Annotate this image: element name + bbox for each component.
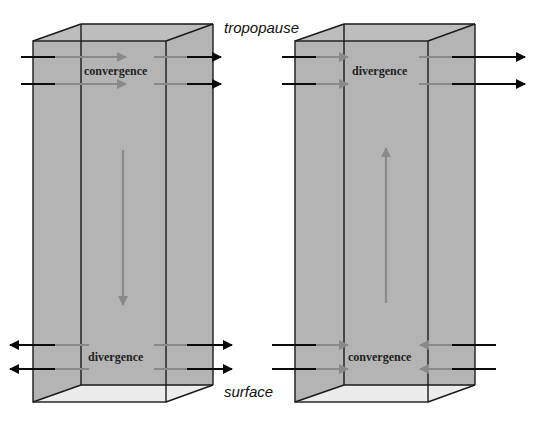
right-top-label: divergence bbox=[352, 64, 407, 79]
tropopause-label: tropopause bbox=[224, 19, 299, 36]
diagram-canvas bbox=[0, 0, 538, 421]
left-top-label: convergence bbox=[84, 64, 147, 79]
left-column-box bbox=[10, 24, 232, 402]
surface-label: surface bbox=[224, 383, 273, 400]
right-column-box bbox=[272, 24, 525, 402]
right-bottom-label: convergence bbox=[348, 350, 411, 365]
diagram: tropopause surface convergence divergenc… bbox=[0, 0, 538, 421]
left-bottom-label: divergence bbox=[88, 350, 143, 365]
